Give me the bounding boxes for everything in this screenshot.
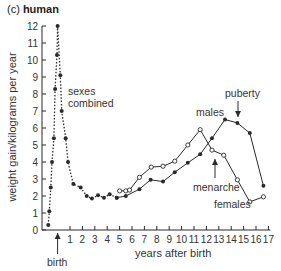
y-tick-label: 6 [32, 123, 38, 134]
data-point [47, 209, 51, 213]
x-axis-label: years after birth [135, 247, 211, 259]
annotation-females: females [214, 198, 251, 210]
annotation-birth: birth [47, 256, 67, 268]
x-tick-label: 6 [129, 234, 135, 245]
data-point [161, 164, 165, 168]
data-point [53, 87, 57, 91]
x-tick-label: 12 [201, 234, 213, 245]
data-point [115, 196, 119, 200]
data-point [210, 136, 214, 140]
x-tick-label: 5 [117, 234, 123, 245]
data-point [90, 197, 94, 201]
x-tick-label: 1 [67, 234, 73, 245]
y-tick-label: 7 [32, 106, 38, 117]
data-point [161, 180, 165, 184]
y-tick-label: 12 [27, 21, 39, 32]
y-tick-label: 4 [32, 157, 38, 168]
x-tick-label: 14 [226, 234, 238, 245]
data-point [50, 160, 54, 164]
data-point [55, 53, 59, 57]
x-tick-label: 15 [238, 234, 250, 245]
x-tick-label: 16 [250, 234, 262, 245]
data-point [186, 143, 190, 147]
data-point [52, 136, 56, 140]
x-tick-label: 10 [176, 234, 188, 245]
data-point [56, 24, 60, 28]
y-tick-label: 3 [32, 174, 38, 185]
data-point [198, 128, 202, 132]
puberty-arrow-icon-head [235, 111, 241, 117]
chart-plot: 0123456789101112123456789101112131415161… [0, 0, 281, 271]
x-tick-label: 8 [154, 234, 160, 245]
data-point [210, 148, 214, 152]
data-point [85, 194, 89, 198]
y-tick-label: 5 [32, 140, 38, 151]
data-point [149, 165, 153, 169]
y-tick-label: 9 [32, 72, 38, 83]
x-tick-label: 7 [142, 234, 148, 245]
y-tick-label: 11 [28, 38, 39, 49]
data-point [223, 118, 227, 122]
x-tick-label: 17 [263, 234, 275, 245]
annotation-puberty: puberty [225, 87, 260, 99]
data-point [64, 136, 68, 140]
x-tick-label: 13 [213, 234, 225, 245]
data-point [261, 195, 265, 199]
data-point [235, 121, 239, 125]
data-point [49, 186, 53, 190]
y-tick-label: 0 [32, 225, 38, 236]
data-point [137, 175, 141, 179]
y-tick-label: 10 [27, 55, 39, 66]
data-point [222, 153, 226, 157]
y-tick-label: 8 [32, 89, 38, 100]
data-point [173, 159, 177, 163]
annotation-males: males [196, 106, 224, 118]
data-point [71, 182, 75, 186]
data-point [261, 184, 265, 188]
data-point [58, 73, 62, 77]
birth-arrow-icon-head [55, 233, 61, 239]
data-point [108, 192, 112, 196]
x-tick-label: 2 [80, 234, 86, 245]
y-tick-label: 1 [32, 208, 38, 219]
data-point [248, 131, 252, 135]
y-axis-label: weight gain/kilograms per year [6, 37, 18, 217]
data-point [149, 178, 153, 182]
data-point [198, 152, 202, 156]
x-tick-label: 4 [104, 234, 110, 245]
x-tick-label: 11 [189, 234, 200, 245]
data-point [186, 161, 190, 165]
data-point [124, 194, 128, 198]
data-point [137, 187, 141, 191]
data-point [46, 223, 50, 227]
data-point [79, 186, 83, 190]
x-tick-label: 3 [92, 234, 98, 245]
data-point [102, 196, 106, 200]
data-point [60, 109, 64, 113]
data-point [118, 189, 122, 193]
x-tick-label: 9 [166, 234, 172, 245]
data-point [66, 160, 70, 164]
y-tick-label: 2 [32, 191, 38, 202]
series-line-females [120, 130, 264, 202]
data-point [127, 188, 131, 192]
annotation-menarche: menarche [193, 181, 240, 193]
annotation-sexes-combined: sexes combined [68, 85, 114, 109]
data-point [173, 170, 177, 174]
data-point [96, 193, 100, 197]
menarche-arrow-icon-head [212, 159, 218, 165]
